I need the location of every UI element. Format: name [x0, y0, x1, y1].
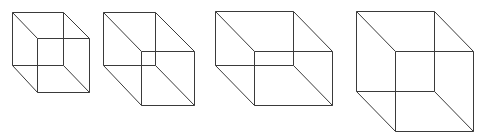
edge-connector-tr	[294, 12, 333, 52]
edge-connector-tl	[13, 13, 38, 39]
cube-3	[216, 12, 333, 106]
edge-connector-tl	[104, 13, 142, 52]
edge-connector-tr	[156, 13, 195, 52]
edge-connector-tr	[435, 12, 474, 52]
edge-connector-bl	[216, 66, 255, 106]
edge-connector-bl	[357, 92, 396, 132]
edge-connector-br	[294, 66, 333, 106]
edge-connector-tr	[64, 13, 90, 39]
cube-4	[357, 12, 474, 132]
edge-connector-bl	[104, 66, 142, 106]
edge-connector-tl	[216, 12, 255, 52]
edge-connector-tl	[357, 12, 396, 52]
edge-connector-bl	[13, 66, 38, 93]
wireframe-cubes-diagram	[0, 0, 481, 137]
cube-1	[13, 13, 90, 93]
cube-2	[104, 13, 195, 106]
edge-connector-br	[435, 92, 474, 132]
edge-connector-br	[156, 66, 195, 106]
edge-connector-br	[64, 66, 90, 93]
